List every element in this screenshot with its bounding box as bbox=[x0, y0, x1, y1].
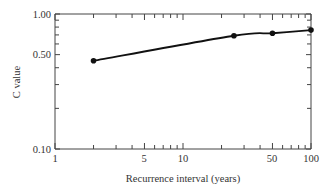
y-axis-ticks-right bbox=[306, 14, 311, 149]
x-axis-title: Recurrence interval (years) bbox=[126, 173, 241, 185]
y-tick-label-0.50: 0.50 bbox=[33, 49, 51, 60]
x-tick-label-50: 50 bbox=[267, 153, 278, 164]
x-tick-label-10: 10 bbox=[178, 153, 189, 164]
x-tick-label-5: 5 bbox=[141, 153, 146, 164]
y-axis-ticks bbox=[55, 14, 60, 149]
y-tick-label-1.00: 1.00 bbox=[33, 9, 51, 20]
y-axis-title: C value bbox=[11, 65, 22, 98]
data-point bbox=[308, 27, 314, 33]
y-tick-label-0.10: 0.10 bbox=[33, 144, 51, 155]
chart: 1.00 0.50 0.10 1 5 10 50 100 Recurrence … bbox=[0, 0, 336, 187]
x-axis-ticks bbox=[55, 143, 311, 149]
data-curve bbox=[94, 30, 311, 61]
x-tick-label-1: 1 bbox=[52, 153, 57, 164]
data-point bbox=[91, 58, 97, 64]
data-point bbox=[270, 30, 276, 36]
x-tick-label-100: 100 bbox=[303, 153, 319, 164]
x-axis-ticks-top bbox=[55, 14, 311, 20]
data-point bbox=[231, 33, 237, 39]
